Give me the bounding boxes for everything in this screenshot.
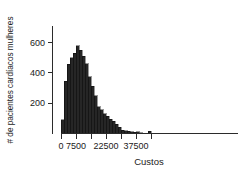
histogram-bar <box>82 56 85 133</box>
x-tick-label: 22500 <box>93 141 118 151</box>
histogram-bar <box>103 114 106 134</box>
histogram-plot: 200400600 075002250037500 Custos # de pa… <box>0 0 246 173</box>
x-tick-marks <box>61 134 151 139</box>
y-tick-label: 400 <box>30 68 45 78</box>
histogram-bar <box>97 107 100 134</box>
y-axis-title: # de pacientes cardíacos mulheres <box>6 17 15 144</box>
histogram-bar <box>88 77 91 134</box>
histogram-bar <box>115 124 118 133</box>
histogram-bar <box>61 120 64 134</box>
histogram-bar <box>118 127 121 133</box>
y-tick-labels: 200400600 <box>30 38 45 109</box>
histogram-bar <box>121 130 124 133</box>
histogram-bar <box>64 81 67 133</box>
histogram-bar <box>91 86 94 133</box>
histogram-bar <box>70 58 73 134</box>
x-tick-label: 0 <box>58 141 63 151</box>
y-tick-label: 200 <box>30 98 45 108</box>
histogram-bar <box>100 110 103 134</box>
histogram-bar <box>106 116 109 133</box>
x-tick-label: 37500 <box>123 141 148 151</box>
histogram-bar <box>112 121 115 133</box>
histogram-bar <box>94 96 97 134</box>
x-tick-label: 7500 <box>66 141 86 151</box>
histogram-bar <box>76 46 79 134</box>
histogram-bar <box>73 53 76 133</box>
y-tick-marks <box>48 43 53 104</box>
histogram-bars <box>61 46 151 134</box>
histogram-bar <box>109 119 112 133</box>
y-tick-label: 600 <box>30 38 45 48</box>
histogram-bar <box>67 64 70 133</box>
histogram-canvas: 200400600 075002250037500 Custos # de pa… <box>0 0 246 173</box>
x-tick-labels: 075002250037500 <box>58 141 148 151</box>
x-axis-title: Custos <box>134 156 164 167</box>
histogram-bar <box>79 50 82 133</box>
histogram-bar <box>85 64 88 134</box>
